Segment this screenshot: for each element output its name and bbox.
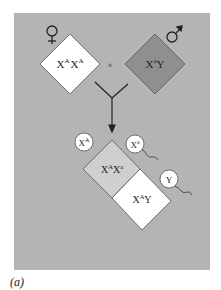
- diagram-panel: XAXA × XaY XA Xa: [14, 13, 210, 270]
- egg-gamete: XA: [75, 133, 93, 151]
- svg-text:Y: Y: [166, 175, 173, 185]
- svg-text:XAXa: XAXa: [101, 163, 123, 175]
- figure-caption: (a): [10, 275, 24, 290]
- cross-symbol: ×: [107, 60, 112, 70]
